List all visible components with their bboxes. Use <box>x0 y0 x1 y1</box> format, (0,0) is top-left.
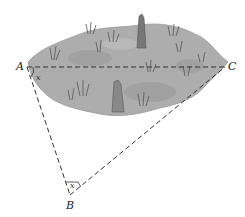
marsh-patch <box>102 38 138 50</box>
svg-text:x: x <box>70 181 75 190</box>
diagram-canvas: x x <box>0 0 245 217</box>
point-label-b: B <box>66 199 74 212</box>
svg-text:x: x <box>36 73 41 82</box>
point-label-c: C <box>228 60 236 73</box>
point-label-a: A <box>16 60 24 73</box>
marsh-patch <box>68 50 112 66</box>
marsh-patch <box>124 82 176 102</box>
tree-stump <box>137 14 146 48</box>
